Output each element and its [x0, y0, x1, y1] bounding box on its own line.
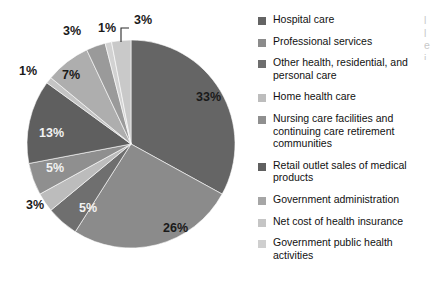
legend-item[interactable]: Nursing care facilities and continuing c…: [258, 112, 432, 150]
slice-percent-label: 3%: [63, 24, 81, 38]
legend-swatch-icon: [258, 94, 266, 102]
legend-swatch-icon: [258, 60, 266, 68]
legend-item[interactable]: Net cost of health insurance: [258, 215, 432, 228]
legend-swatch-icon: [258, 17, 266, 25]
pie-chart-svg: 33%26%5%3%5%13%1%7%3%1%3%: [0, 0, 264, 283]
legend-item-label: Home health care: [273, 90, 356, 103]
slice-percent-label: 26%: [163, 221, 188, 235]
chart-legend: Hospital careProfessional servicesOther …: [258, 0, 432, 283]
legend-swatch-icon: [258, 39, 266, 47]
legend-item-label: Net cost of health insurance: [273, 215, 403, 228]
legend-item[interactable]: Government public health activities: [258, 236, 432, 261]
slice-percent-label: 1%: [98, 21, 116, 35]
slice-percent-label: 1%: [19, 64, 37, 78]
slice-percent-label: 7%: [62, 68, 80, 82]
legend-swatch-icon: [258, 163, 266, 171]
slice-percent-label: 33%: [196, 90, 221, 104]
legend-item-label: Hospital care: [273, 13, 334, 26]
legend-item[interactable]: Hospital care: [258, 13, 432, 26]
slice-percent-label: 5%: [46, 161, 64, 175]
legend-item[interactable]: Home health care: [258, 90, 432, 103]
legend-item-label: Government public health activities: [273, 236, 393, 261]
slice-percent-label: 3%: [134, 13, 152, 27]
legend-item-label: Nursing care facilities and continuing c…: [273, 112, 394, 150]
pie-chart-area: 33%26%5%3%5%13%1%7%3%1%3%: [0, 0, 264, 283]
legend-item[interactable]: Other health, residential, and personal …: [258, 56, 432, 81]
legend-item[interactable]: Government administration: [258, 193, 432, 206]
clipped-edge-text: l l e i: [424, 14, 432, 60]
legend-item[interactable]: Retail outlet sales of medical products: [258, 159, 432, 184]
legend-item-label: Professional services: [273, 35, 372, 48]
legend-item-label: Retail outlet sales of medical products: [273, 159, 407, 184]
slice-percent-label: 3%: [26, 198, 44, 212]
slice-percent-label: 13%: [39, 126, 64, 140]
legend-swatch-icon: [258, 219, 266, 227]
pie-slice-group: [27, 40, 235, 248]
legend-swatch-icon: [258, 197, 266, 205]
legend-item-label: Other health, residential, and personal …: [273, 56, 408, 81]
legend-swatch-icon: [258, 116, 266, 124]
slice-percent-label: 5%: [79, 201, 97, 215]
legend-swatch-icon: [258, 240, 266, 248]
legend-item-label: Government administration: [273, 193, 399, 206]
legend-item[interactable]: Professional services: [258, 35, 432, 48]
pie-chart-figure: 33%26%5%3%5%13%1%7%3%1%3% Hospital careP…: [0, 0, 432, 283]
